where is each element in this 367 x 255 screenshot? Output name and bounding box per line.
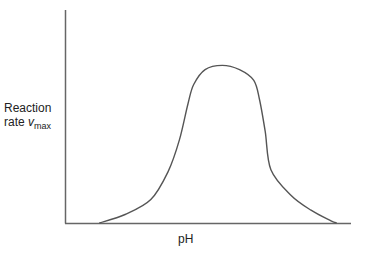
y-axis-label-line2: rate vmax bbox=[4, 115, 51, 133]
y-axis-label-line1: Reaction bbox=[4, 101, 51, 115]
y-axis-label-prefix: rate bbox=[4, 115, 28, 129]
y-axis-label-sub: max bbox=[34, 121, 51, 131]
x-axis-label: pH bbox=[178, 232, 193, 246]
chart-plot-area bbox=[0, 0, 367, 255]
y-axis-label: Reaction rate vmax bbox=[4, 101, 51, 133]
rate-curve bbox=[99, 65, 336, 223]
